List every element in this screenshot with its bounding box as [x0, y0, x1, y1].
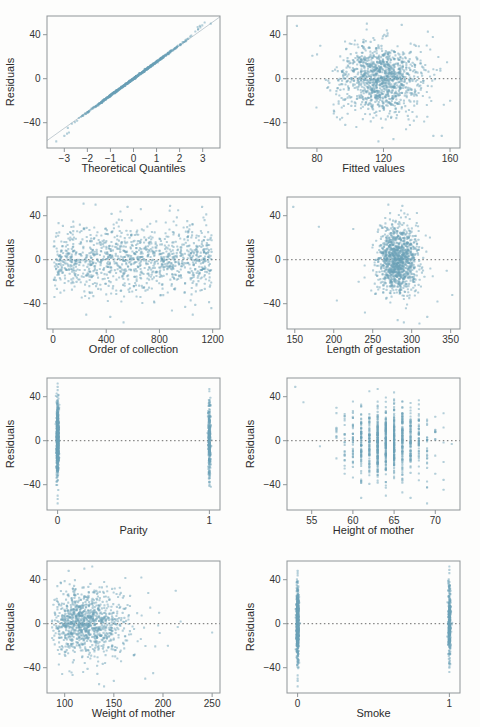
smoke-canvas: 01400−40: [240, 545, 480, 726]
points-layer: [55, 22, 212, 143]
plot-area: [47, 17, 220, 143]
points-layer: [53, 203, 213, 324]
fitted-values-canvas: 80120160400−40: [240, 0, 480, 181]
svg-text:0: 0: [35, 618, 41, 629]
svg-text:40: 40: [269, 210, 281, 221]
plot-smoke: Residuals 01400−40 Smoke: [240, 545, 480, 727]
svg-text:−40: −40: [24, 479, 41, 490]
points-layer: [292, 204, 453, 325]
svg-text:−40: −40: [24, 298, 41, 309]
y-axis-ticks: 400−40: [24, 29, 47, 128]
length-of-gestation-canvas: 150200250300350400−40: [240, 181, 480, 362]
points-layer: [296, 23, 451, 143]
svg-text:0: 0: [275, 618, 281, 629]
plot-fitted-values: Residuals 80120160400−40 Fitted values: [240, 0, 480, 181]
svg-text:40: 40: [29, 574, 41, 585]
svg-text:−40: −40: [264, 298, 281, 309]
plot-height-of-mother: Residuals 55606570400−40 Height of mothe…: [240, 362, 480, 545]
svg-text:40: 40: [29, 210, 41, 221]
x-axis-label: Smoke: [287, 707, 460, 721]
plot-area: [47, 565, 220, 687]
y-axis-ticks: 400−40: [264, 29, 287, 128]
plot-area: [287, 23, 460, 143]
svg-text:−40: −40: [264, 117, 281, 128]
x-axis-label: Order of collection: [47, 343, 220, 357]
y-axis-ticks: 400−40: [24, 391, 47, 490]
y-axis-ticks: 400−40: [24, 210, 47, 309]
plot-length-of-gestation: Residuals 150200250300350400−40 Length o…: [240, 181, 480, 362]
panel-border: [287, 197, 460, 329]
plot-area: [287, 386, 460, 505]
order-of-collection-canvas: 04008001200400−40: [0, 181, 240, 362]
points-layer: [294, 386, 453, 505]
x-axis-label: Height of mother: [287, 524, 460, 538]
plot-area: [47, 382, 220, 504]
y-axis-ticks: 400−40: [264, 574, 287, 673]
points-layer: [295, 565, 454, 687]
svg-text:40: 40: [269, 574, 281, 585]
panel-border: [287, 561, 460, 693]
parity-canvas: 01400−40: [0, 362, 240, 543]
height-of-mother-canvas: 55606570400−40: [240, 362, 480, 543]
x-axis-label: Length of gestation: [287, 343, 460, 357]
svg-text:40: 40: [29, 29, 41, 40]
panel-border: [287, 378, 460, 510]
svg-text:−40: −40: [24, 662, 41, 673]
plot-area: [47, 203, 220, 324]
y-axis-ticks: 400−40: [264, 210, 287, 309]
svg-text:40: 40: [269, 29, 281, 40]
y-axis-ticks: 400−40: [264, 391, 287, 490]
figure-grid: Residuals −3−2−10123400−40 Theoretical Q…: [0, 0, 480, 727]
x-axis-label: Weight of mother: [47, 707, 220, 721]
svg-text:40: 40: [29, 391, 41, 402]
points-layer: [51, 565, 213, 687]
svg-text:0: 0: [35, 435, 41, 446]
weight-of-mother-canvas: 100150200250400−40: [0, 545, 240, 726]
panel-border: [47, 378, 220, 510]
x-axis-label: Theoretical Quantiles: [47, 162, 220, 176]
svg-text:40: 40: [269, 391, 281, 402]
svg-text:0: 0: [275, 254, 281, 265]
svg-text:0: 0: [275, 435, 281, 446]
plot-area: [287, 204, 460, 325]
points-layer: [55, 382, 213, 504]
svg-text:0: 0: [35, 73, 41, 84]
x-axis-label: Fitted values: [287, 162, 460, 176]
svg-text:0: 0: [275, 73, 281, 84]
svg-text:−40: −40: [24, 117, 41, 128]
svg-text:−40: −40: [264, 662, 281, 673]
y-axis-ticks: 400−40: [24, 574, 47, 673]
plot-area: [287, 565, 460, 687]
plot-weight-of-mother: Residuals 100150200250400−40 Weight of m…: [0, 545, 240, 727]
plot-order-of-collection: Residuals 04008001200400−40 Order of col…: [0, 181, 240, 362]
qq-plot-canvas: −3−2−10123400−40: [0, 0, 240, 181]
svg-text:−40: −40: [264, 479, 281, 490]
plot-qq: Residuals −3−2−10123400−40 Theoretical Q…: [0, 0, 240, 181]
svg-text:0: 0: [35, 254, 41, 265]
plot-parity: Residuals 01400−40 Parity: [0, 362, 240, 545]
x-axis-label: Parity: [47, 524, 220, 538]
